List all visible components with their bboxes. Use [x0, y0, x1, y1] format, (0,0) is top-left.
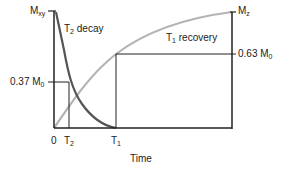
mz-label: Mz: [238, 6, 250, 17]
t1-recovery-label: T1 recovery: [166, 33, 217, 44]
m063-label: 0.63 M0: [238, 49, 272, 60]
x-tick-zero: 0: [51, 136, 57, 146]
x-axis-title: Time: [130, 154, 152, 164]
x-tick-t2: T2: [64, 136, 74, 147]
m037-label: 0.37 M0: [10, 77, 44, 88]
x-tick-t1: T1: [111, 136, 121, 147]
mxy-label: Mxy: [30, 6, 45, 17]
t2-decay-label: T2 decay: [64, 24, 103, 35]
